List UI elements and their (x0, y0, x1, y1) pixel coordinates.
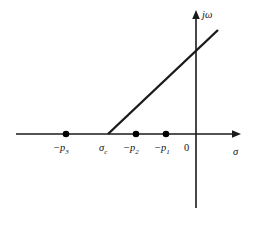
label-pole-p1-subscript: 1 (166, 148, 170, 156)
label-pole-p2: −p2 (123, 143, 139, 156)
pole-marker-p3 (63, 131, 70, 138)
convergence-boundary-line (108, 30, 218, 134)
sigma-axis-arrow-icon (232, 130, 241, 138)
plot-canvas (0, 0, 257, 229)
label-sigma-c: σc (99, 143, 107, 156)
pole-marker-p1 (163, 131, 170, 138)
j-omega-axis-arrow-icon (192, 10, 200, 19)
label-pole-p2-subscript: 2 (135, 148, 139, 156)
label-origin-zero: 0 (184, 143, 189, 154)
label-pole-p3-subscript: 3 (65, 148, 69, 156)
label-pole-p1: −p1 (154, 143, 170, 156)
label-pole-p3: −p3 (53, 143, 69, 156)
s-plane-pole-diagram: −p3 σc −p2 −p1 0 σ jω (0, 0, 257, 229)
sigma-axis-label: σ (233, 147, 238, 158)
label-sigma-c-subscript: c (104, 148, 107, 156)
j-omega-axis-label: jω (202, 10, 212, 21)
pole-marker-p2 (133, 131, 140, 138)
